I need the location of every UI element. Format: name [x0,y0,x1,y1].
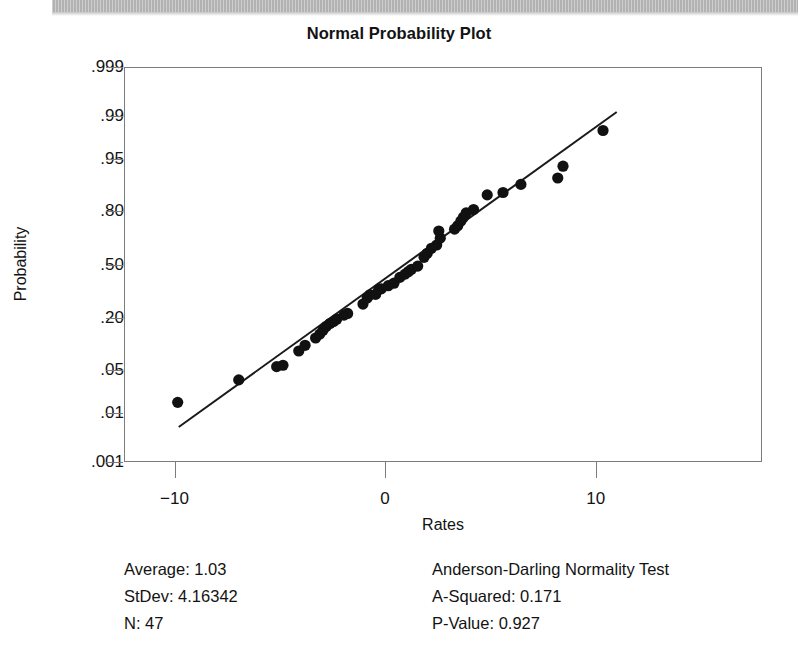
y-tick-mark [106,159,123,160]
probability-plot-page: Normal Probability Plot .999.99.95.80.50… [0,0,798,648]
y-tick-mark [106,370,123,371]
fit-line [179,112,617,427]
y-tick-mark [106,211,123,212]
data-point [552,172,563,183]
x-tick-label: 10 [556,489,636,509]
stat-a-squared: A-Squared: 0.171 [432,583,669,610]
data-point [433,225,444,236]
data-point [233,374,244,385]
stat-p-value: P-Value: 0.927 [432,610,669,637]
x-tick-label: −10 [135,489,215,509]
y-axis-label: Probability [12,227,30,302]
data-point [172,397,183,408]
stat-n: N: 47 [124,610,238,637]
data-point [515,179,526,190]
statistics-panel: Average: 1.03 StDev: 4.16342 N: 47 Ander… [0,556,798,636]
x-tick-mark [175,462,176,478]
data-point [299,340,310,351]
y-tick-mark [106,265,123,266]
y-tick-mark [106,462,123,463]
stat-stdev: StDev: 4.16342 [124,583,238,610]
page-title: Normal Probability Plot [0,24,798,43]
y-tick-mark [106,318,123,319]
page-header-band [52,0,798,12]
descriptive-stats-column: Average: 1.03 StDev: 4.16342 N: 47 [124,556,238,637]
y-tick-mark [106,116,123,117]
data-point [497,187,508,198]
data-point [342,308,353,319]
data-points [172,125,609,408]
y-tick-mark [106,413,123,414]
data-point [557,161,568,172]
test-title: Anderson-Darling Normality Test [432,556,669,583]
x-axis-label: Rates [124,516,762,534]
plot-canvas [124,67,762,462]
data-point [482,189,493,200]
x-tick-mark [596,462,597,478]
x-tick-label: 0 [345,489,425,509]
stat-average: Average: 1.03 [124,556,238,583]
data-point [597,125,608,136]
data-point [277,360,288,371]
y-tick-mark [106,67,123,68]
normality-test-column: Anderson-Darling Normality Test A-Square… [432,556,669,637]
fit-line-segment [179,112,617,427]
data-point [468,204,479,215]
x-tick-mark [385,462,386,478]
page-header-band-shadow [52,12,798,16]
